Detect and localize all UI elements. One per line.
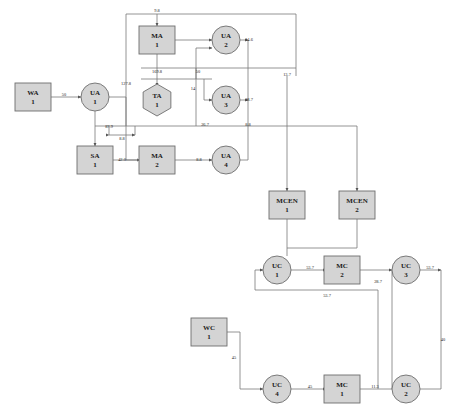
node-label-secondary: 2: [340, 271, 344, 279]
node-label-primary: MA: [151, 152, 163, 160]
edge-label-ua2-out: 14.6: [245, 37, 253, 42]
node-label-primary: WC: [203, 324, 215, 332]
edge-label-mc1-uc2: 11.3: [371, 384, 379, 389]
node-wc1[interactable]: WC1: [191, 318, 227, 346]
edge-label-left-trunk: 127.8: [121, 81, 132, 86]
edge-to-ua3: [204, 79, 212, 100]
node-label-secondary: 1: [155, 101, 159, 109]
node-ta1[interactable]: TA1: [143, 84, 171, 116]
node-label-primary: MC: [336, 262, 348, 270]
node-label-primary: WA: [27, 89, 38, 97]
node-label-primary: MCEN: [276, 197, 297, 205]
edge-label-top-137: 13.7: [283, 72, 291, 77]
node-label-secondary: 1: [207, 333, 211, 341]
node-label-secondary: 1: [31, 98, 35, 106]
node-label-primary: UC: [401, 262, 411, 270]
node-ma1[interactable]: MA1: [139, 26, 175, 54]
edge-label-fb-537: 53.7: [323, 293, 331, 298]
node-mcen2[interactable]: MCEN2: [339, 191, 375, 219]
node-label-secondary: 1: [93, 98, 97, 106]
node-label-secondary: 2: [404, 390, 408, 398]
node-label-primary: UC: [401, 381, 411, 389]
edge-label-mid-vert: 14: [191, 86, 196, 91]
node-label-primary: UA: [221, 32, 231, 40]
node-label-secondary: 3: [404, 271, 408, 279]
node-label-secondary: 2: [355, 206, 359, 214]
node-label-secondary: 2: [224, 41, 228, 49]
edge-to-ua2: [196, 48, 212, 79]
node-wa1[interactable]: WA1: [15, 83, 51, 111]
node-label-primary: MCEN: [346, 197, 367, 205]
edge-layer: [50, 14, 441, 389]
node-label-primary: UC: [272, 381, 282, 389]
edge-left-trunk-down: [126, 126, 140, 160]
edge-label-uc3-out: 53.7: [426, 265, 434, 270]
node-uc3[interactable]: UC3: [392, 256, 420, 284]
edge-feedback-uc1: [255, 270, 263, 290]
node-label-primary: MC: [336, 381, 348, 389]
node-label-primary: TA: [152, 92, 161, 100]
node-mc2[interactable]: MC2: [324, 256, 360, 284]
node-ma2[interactable]: MA2: [139, 146, 175, 174]
process-flow-diagram: WA1UA1SA1MA1TA1MA2UA2UA3UA4MCEN1MCEN2UC1…: [0, 0, 455, 419]
edge-mcen2-down: [287, 219, 357, 248]
node-label-secondary: 3: [224, 101, 228, 109]
node-ua1[interactable]: UA1: [81, 83, 109, 111]
node-sa1[interactable]: SA1: [77, 146, 113, 174]
edge-label-sa1-ma2: 42.0: [118, 157, 126, 162]
node-label-primary: UC: [272, 262, 282, 270]
node-label-secondary: 4: [275, 390, 279, 398]
node-mcen1[interactable]: MCEN1: [269, 191, 305, 219]
edge-label-uc4-mc1: 45: [308, 384, 313, 389]
edge-label-ma2-ua4: 8.8: [196, 157, 202, 162]
node-label-secondary: 1: [155, 41, 159, 49]
node-uc1[interactable]: UC1: [263, 256, 291, 284]
edge-label-sa1-back: 8.8: [119, 136, 125, 141]
node-layer: WA1UA1SA1MA1TA1MA2UA2UA3UA4MCEN1MCEN2UC1…: [15, 26, 420, 403]
edge-label-mc2-uc3: 28.7: [374, 279, 382, 284]
edge-label-wc1-uc4: 45: [232, 355, 237, 360]
node-label-primary: UA: [90, 89, 100, 97]
edge-ua1-trunk: [109, 97, 126, 126]
edge-label-wa1-ua1: 50: [62, 92, 67, 97]
node-label-primary: UA: [221, 152, 231, 160]
label-layer: 509.8127.8169.8501487.98.842.08.826.78.8…: [62, 8, 446, 389]
node-label-secondary: 1: [340, 390, 344, 398]
node-label-primary: MA: [151, 32, 163, 40]
edge-label-ta1-branch: 50: [196, 69, 201, 74]
node-label-primary: SA: [91, 152, 100, 160]
node-label-secondary: 4: [224, 161, 228, 169]
edge-label-vert-88: 8.8: [245, 122, 251, 127]
node-ua4[interactable]: UA4: [212, 146, 240, 174]
node-uc4[interactable]: UC4: [263, 375, 291, 403]
edge-label-right-40: 40: [441, 337, 446, 342]
node-ua2[interactable]: UA2: [212, 26, 240, 54]
node-label-secondary: 1: [93, 161, 97, 169]
node-mc1[interactable]: MC1: [324, 375, 360, 403]
node-label-secondary: 2: [155, 161, 159, 169]
edge-label-ma1-top: 9.8: [154, 8, 160, 13]
edge-label-ua1-sa1: 87.9: [105, 124, 113, 129]
edge-wc1-uc4: [227, 332, 263, 389]
edge-label-ma1-ta1: 169.8: [152, 69, 163, 74]
node-label-secondary: 1: [285, 206, 289, 214]
edge-label-trunk-267: 26.7: [201, 122, 209, 127]
node-label-primary: UA: [221, 92, 231, 100]
node-label-secondary: 1: [275, 271, 279, 279]
edge-label-uc1-mc2: 53.7: [306, 265, 314, 270]
node-uc2[interactable]: UC2: [392, 375, 420, 403]
node-ua3[interactable]: UA3: [212, 86, 240, 114]
edge-right-rail: [420, 270, 441, 389]
edge-label-ua3-out: 18.7: [245, 97, 253, 102]
